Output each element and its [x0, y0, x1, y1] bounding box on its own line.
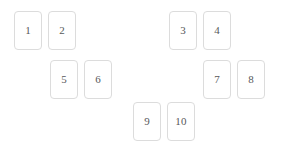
card-1[interactable]: 1: [14, 11, 42, 50]
card-5[interactable]: 5: [50, 60, 78, 99]
card-label: 1: [25, 25, 31, 36]
card-label: 9: [144, 116, 150, 127]
card-label: 6: [95, 74, 101, 85]
card-3[interactable]: 3: [169, 11, 197, 50]
card-label: 2: [59, 25, 65, 36]
card-2[interactable]: 2: [48, 11, 76, 50]
card-label: 7: [214, 74, 220, 85]
card-label: 5: [61, 74, 67, 85]
card-grid: 12345678910: [0, 0, 285, 148]
card-7[interactable]: 7: [203, 60, 231, 99]
card-6[interactable]: 6: [84, 60, 112, 99]
card-8[interactable]: 8: [237, 60, 265, 99]
card-10[interactable]: 10: [167, 102, 195, 141]
card-4[interactable]: 4: [203, 11, 231, 50]
card-9[interactable]: 9: [133, 102, 161, 141]
card-label: 4: [214, 25, 220, 36]
card-label: 10: [175, 116, 186, 127]
card-label: 3: [180, 25, 186, 36]
card-label: 8: [248, 74, 254, 85]
